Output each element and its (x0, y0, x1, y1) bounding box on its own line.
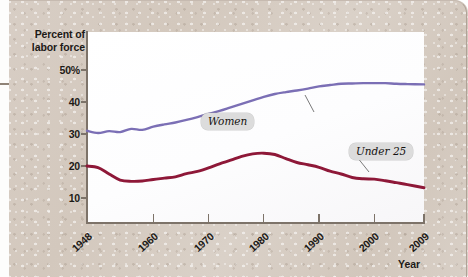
line-series-women (87, 83, 424, 133)
series-lines (87, 83, 424, 188)
series-overlay (0, 0, 468, 277)
leader-line-women (305, 95, 314, 112)
annotation-women: Women (201, 113, 254, 130)
figure-container: Percent of labor force 1020304050% 19481… (0, 0, 468, 277)
annotation-leader-lines (305, 95, 369, 172)
annotation-under-25: Under 25 (349, 143, 413, 160)
